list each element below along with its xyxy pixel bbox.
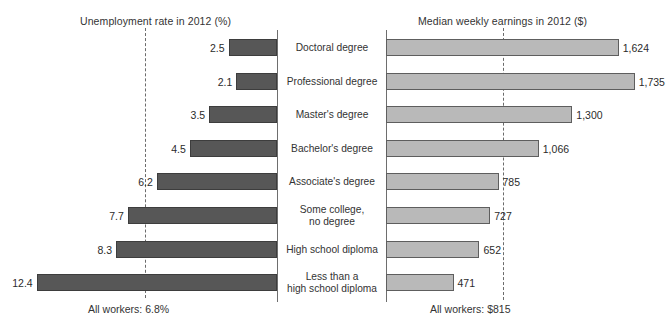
category-label-line: Professional degree <box>287 76 378 88</box>
category-label: Professional degree <box>278 66 386 98</box>
earnings-bar <box>386 140 539 157</box>
earnings-bar <box>386 39 619 56</box>
chart-row: 7.7Some college,no degree727 <box>0 200 668 232</box>
unemployment-value: 8.3 <box>98 242 113 258</box>
chart-row: 6.2Associate's degree785 <box>0 166 668 198</box>
earnings-bar <box>386 73 635 90</box>
unemployment-value: 2.1 <box>218 74 233 90</box>
category-label: Associate's degree <box>278 166 386 198</box>
unemployment-bar <box>236 73 277 90</box>
left-all-workers-note: All workers: 6.8% <box>88 303 169 315</box>
unemployment-bar <box>128 207 277 224</box>
category-label-line: Less than a <box>306 271 359 283</box>
chart-row: 4.5Bachelor's degree1,066 <box>0 133 668 165</box>
chart-row: 3.5Master's degree1,300 <box>0 99 668 131</box>
category-label: Doctoral degree <box>278 32 386 64</box>
category-label: Some college,no degree <box>278 200 386 232</box>
chart-row: 2.1Professional degree1,735 <box>0 66 668 98</box>
unemployment-value: 4.5 <box>171 141 186 157</box>
earnings-value: 1,300 <box>576 107 602 123</box>
unemployment-value: 6.2 <box>138 174 153 190</box>
category-label-line: High school diploma <box>286 244 378 256</box>
unemployment-bar <box>190 140 277 157</box>
unemployment-value: 12.4 <box>12 275 32 291</box>
unemployment-bar <box>209 106 277 123</box>
earnings-bar <box>386 241 479 258</box>
earnings-bar <box>386 207 490 224</box>
earnings-bar <box>386 274 454 291</box>
earnings-value: 652 <box>483 242 501 258</box>
category-label-line: Doctoral degree <box>296 42 369 54</box>
education-pays-chart: Unemployment rate in 2012 (%) Median wee… <box>0 0 668 329</box>
earnings-value: 1,735 <box>639 74 665 90</box>
unemployment-value: 3.5 <box>191 107 206 123</box>
category-label-line: Associate's degree <box>289 176 375 188</box>
category-label-line: Some college, <box>300 204 365 216</box>
earnings-value: 785 <box>503 174 521 190</box>
chart-row: 8.3High school diploma652 <box>0 234 668 266</box>
category-label: High school diploma <box>278 234 386 266</box>
right-all-workers-note: All workers: $815 <box>430 303 511 315</box>
left-panel-title: Unemployment rate in 2012 (%) <box>80 15 231 27</box>
category-label-line: high school diploma <box>287 283 377 295</box>
category-label-line: no degree <box>309 216 355 228</box>
category-label: Less than ahigh school diploma <box>278 267 386 299</box>
category-label: Bachelor's degree <box>278 133 386 165</box>
earnings-value: 1,066 <box>543 141 569 157</box>
earnings-bar <box>386 106 572 123</box>
earnings-value: 727 <box>494 208 512 224</box>
unemployment-bar <box>37 274 277 291</box>
unemployment-value: 7.7 <box>109 208 124 224</box>
earnings-value: 1,624 <box>623 40 649 56</box>
category-label: Master's degree <box>278 99 386 131</box>
unemployment-bar <box>116 241 277 258</box>
unemployment-value: 2.5 <box>210 40 225 56</box>
earnings-bar <box>386 173 499 190</box>
earnings-value: 471 <box>458 275 476 291</box>
category-label-line: Master's degree <box>296 109 369 121</box>
chart-row: 12.4Less than ahigh school diploma471 <box>0 267 668 299</box>
unemployment-bar <box>229 39 277 56</box>
chart-row: 2.5Doctoral degree1,624 <box>0 32 668 64</box>
right-panel-title: Median weekly earnings in 2012 ($) <box>418 15 587 27</box>
unemployment-bar <box>157 173 277 190</box>
category-label-line: Bachelor's degree <box>291 143 373 155</box>
